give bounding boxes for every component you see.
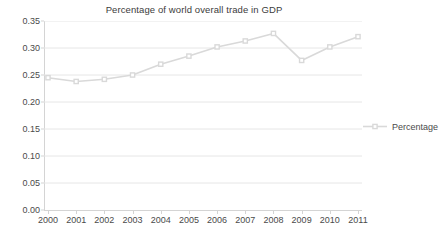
data-point-marker bbox=[328, 45, 332, 49]
y-tick-mark bbox=[41, 129, 44, 130]
y-tick-label: 0.25 bbox=[0, 70, 40, 80]
y-tick-mark bbox=[41, 102, 44, 103]
x-tick-mark bbox=[133, 211, 134, 214]
data-point-marker bbox=[130, 73, 134, 77]
x-tick-mark bbox=[189, 211, 190, 214]
legend-label-percentage: Percentage bbox=[392, 122, 438, 132]
chart-legend: Percentage bbox=[362, 121, 438, 132]
line-chart: Percentage of world overall trade in GDP… bbox=[0, 0, 444, 237]
y-tick-label: 0.05 bbox=[0, 178, 40, 188]
data-point-marker bbox=[243, 39, 247, 43]
data-point-marker bbox=[102, 77, 106, 81]
y-tick-mark bbox=[41, 156, 44, 157]
chart-title: Percentage of world overall trade in GDP bbox=[44, 4, 344, 15]
x-tick-mark bbox=[217, 211, 218, 214]
y-tick-mark bbox=[41, 210, 44, 211]
legend-marker-icon bbox=[362, 121, 388, 132]
data-point-marker bbox=[300, 58, 304, 62]
data-point-marker bbox=[187, 54, 191, 58]
x-tick-mark bbox=[76, 211, 77, 214]
y-tick-mark bbox=[41, 183, 44, 184]
x-tick-mark bbox=[161, 211, 162, 214]
y-tick-label: 0.20 bbox=[0, 97, 40, 107]
x-tick-mark bbox=[273, 211, 274, 214]
series-line-percentage bbox=[48, 33, 358, 81]
y-tick-label: 0.15 bbox=[0, 124, 40, 134]
legend-point-marker bbox=[373, 124, 377, 128]
x-tick-mark bbox=[104, 211, 105, 214]
x-tick-mark bbox=[358, 211, 359, 214]
data-point-marker bbox=[159, 62, 163, 66]
y-tick-label: 0.10 bbox=[0, 151, 40, 161]
data-point-marker bbox=[356, 35, 360, 39]
x-tick-label: 2011 bbox=[338, 215, 378, 225]
x-tick-mark bbox=[330, 211, 331, 214]
plot-area bbox=[44, 21, 362, 210]
data-point-marker bbox=[271, 31, 275, 35]
y-tick-mark bbox=[41, 21, 44, 22]
y-axis-labels: 0.000.050.100.150.200.250.300.35 bbox=[0, 21, 40, 210]
y-tick-label: 0.35 bbox=[0, 16, 40, 26]
y-tick-mark bbox=[41, 75, 44, 76]
y-tick-label: 0.30 bbox=[0, 43, 40, 53]
y-tick-mark bbox=[41, 48, 44, 49]
x-tick-mark bbox=[245, 211, 246, 214]
x-tick-mark bbox=[48, 211, 49, 214]
x-axis-line bbox=[44, 210, 362, 211]
series-plot bbox=[44, 21, 362, 210]
data-point-marker bbox=[46, 76, 50, 80]
data-point-marker bbox=[215, 45, 219, 49]
data-point-marker bbox=[74, 79, 78, 83]
x-tick-mark bbox=[302, 211, 303, 214]
y-tick-label: 0.00 bbox=[0, 205, 40, 215]
